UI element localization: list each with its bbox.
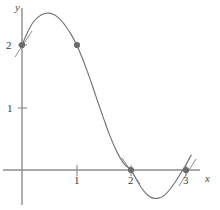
graph-figure: y x 2 1 1 2 3: [0, 0, 220, 210]
x-tick-label-3: 3: [183, 175, 189, 186]
data-point-1-2: [74, 42, 80, 48]
x-axis-label: x: [205, 173, 210, 184]
data-point-2-0: [128, 167, 134, 173]
x-tick-label-1: 1: [74, 175, 80, 186]
data-point-3-0: [183, 167, 189, 173]
x-tick-label-2: 2: [128, 175, 134, 186]
data-point-0-2: [19, 42, 25, 48]
y-tick-label-2: 2: [6, 40, 12, 51]
y-axis-label: y: [15, 2, 20, 13]
y-tick-label-1: 1: [7, 103, 13, 114]
